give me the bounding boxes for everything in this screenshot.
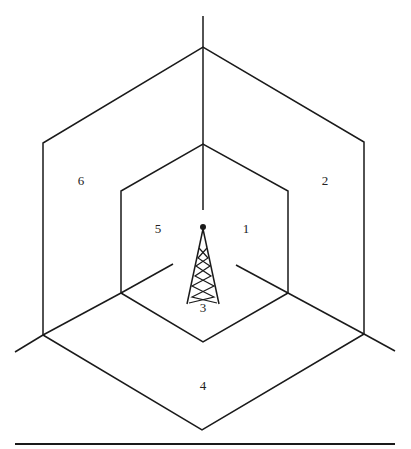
sector-label-4: 4 bbox=[200, 379, 207, 392]
sector-label-6: 6 bbox=[78, 174, 85, 187]
sector-label-1: 1 bbox=[243, 222, 250, 235]
cell-sector-diagram: 1 2 3 4 5 6 bbox=[0, 0, 411, 449]
sector-label-2: 2 bbox=[322, 174, 329, 187]
sector-label-3: 3 bbox=[200, 301, 207, 314]
sector-label-5: 5 bbox=[155, 222, 162, 235]
antenna-tower-icon bbox=[187, 224, 219, 304]
